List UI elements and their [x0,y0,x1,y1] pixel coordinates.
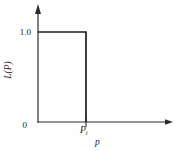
x-axis-arrowhead [165,119,173,125]
oc-curve-chart: 1.0 0 L(P) Pt p [0,0,183,151]
x-axis-title: p [94,137,100,147]
y-value-label: 1.0 [20,27,32,37]
x-breakpoint-label-subscript: t [86,129,88,136]
y-axis-title: L(P) [3,61,14,79]
step-function-line [38,32,86,122]
origin-label: 0 [23,120,28,130]
y-axis-arrowhead [35,4,41,14]
step-function-figure: 1.0 0 L(P) Pt p [0,0,183,151]
